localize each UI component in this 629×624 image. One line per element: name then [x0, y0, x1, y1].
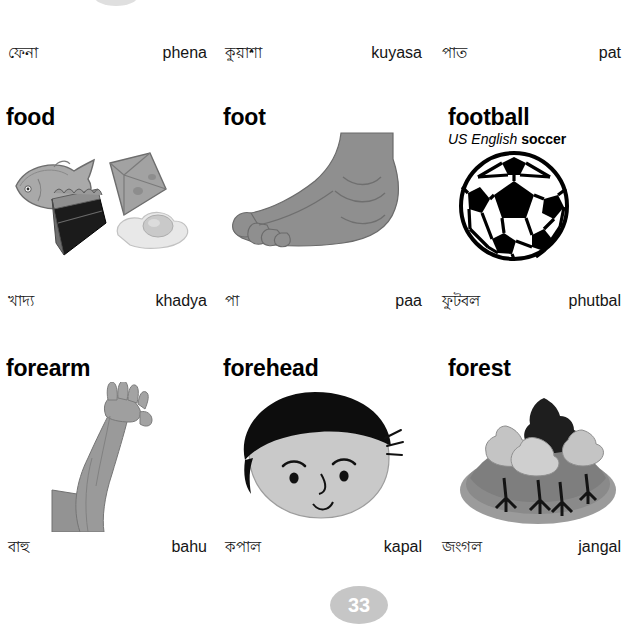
forearm-illustration — [6, 382, 186, 532]
entry-forearm: forearm — [6, 355, 186, 532]
native-word: কপাল — [225, 534, 261, 560]
headword: foot — [223, 104, 423, 131]
entry-football: football US English soccer — [448, 104, 588, 265]
roman-word: phena — [163, 40, 208, 66]
translation-row-2: বাহু bahu কপাল kapal জংগল jangal — [0, 534, 629, 560]
roman-word: bahu — [171, 534, 207, 560]
forest-illustration — [448, 382, 628, 532]
native-word: বাহু — [8, 534, 30, 560]
native-word: জংগল — [442, 534, 482, 560]
page-badge-bleed — [94, 0, 138, 6]
translation-pair: জংগল jangal — [430, 534, 629, 560]
entry-forehead: forehead — [223, 355, 423, 532]
foot-shape — [233, 133, 399, 247]
entry-food: food — [6, 104, 196, 256]
roman-word: kuyasa — [371, 40, 422, 66]
translation-pair: কপাল kapal — [215, 534, 430, 560]
entry-forest: forest — [448, 355, 628, 532]
variant-word: soccer — [521, 131, 566, 147]
native-word: কুয়াশা — [225, 40, 262, 66]
headword: forearm — [6, 355, 186, 382]
native-word: খাদ্য — [8, 288, 34, 314]
roman-word: pat — [599, 40, 621, 66]
headword: forehead — [223, 355, 423, 382]
translation-pair: ফেনা phena — [0, 40, 215, 66]
translation-pair: কুয়াশা kuyasa — [215, 40, 430, 66]
cake-slice-shape — [52, 189, 106, 255]
native-word: ফেনা — [8, 40, 38, 66]
translation-pair: বাহু bahu — [0, 534, 215, 560]
roman-word: jangal — [578, 534, 621, 560]
native-word: ফুটবল — [442, 288, 480, 314]
roman-word: khadya — [155, 288, 207, 314]
roman-word: kapal — [384, 534, 422, 560]
native-word: পা — [225, 288, 239, 314]
roman-word: phutbal — [569, 288, 622, 314]
cheese-wedge-shape — [110, 153, 166, 215]
variant-note: US English soccer — [448, 131, 588, 147]
translation-pair: খাদ্য khadya — [0, 288, 215, 314]
translation-row-1: খাদ্য khadya পা paa ফুটবল phutbal — [0, 288, 629, 314]
translation-pair: ফুটবল phutbal — [430, 288, 629, 314]
entry-foot: foot — [223, 104, 423, 256]
headword: food — [6, 104, 196, 131]
translation-pair: পাত pat — [430, 40, 629, 66]
translation-row-continued: ফেনা phena কুয়াশা kuyasa পাত pat — [0, 40, 629, 66]
forest-shape — [460, 398, 616, 524]
foot-illustration — [223, 131, 423, 256]
forehead-illustration — [223, 382, 423, 532]
native-word: পাত — [442, 40, 467, 66]
roman-word: paa — [395, 288, 422, 314]
variant-label: US English — [448, 131, 517, 147]
page-number: 33 — [348, 594, 370, 617]
translation-pair: পা paa — [215, 288, 430, 314]
headword: forest — [448, 355, 628, 382]
page-number-badge: 33 — [330, 586, 388, 624]
soccer-ball-shape — [461, 153, 567, 259]
food-illustration — [6, 131, 196, 256]
arm-shape — [52, 382, 152, 532]
head-shape — [244, 392, 403, 518]
fried-egg-shape — [117, 212, 187, 248]
football-illustration — [448, 147, 588, 265]
headword: football — [448, 104, 588, 131]
